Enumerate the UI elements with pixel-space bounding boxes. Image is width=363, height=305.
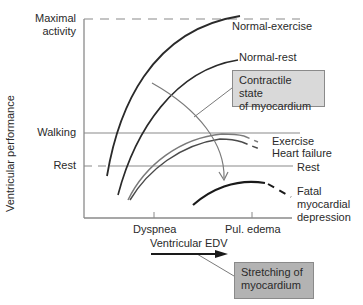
curve-rest-hf (130, 139, 242, 200)
stretching-line1: Stretching of (241, 266, 307, 279)
y-axis-title: Ventricular performance (4, 95, 16, 212)
label-rest-curve: Rest (297, 161, 320, 174)
contractile-line2: of myocardium (239, 100, 318, 113)
curve-fatal (193, 182, 265, 205)
stretching-box: Stretching of myocardium (234, 262, 314, 299)
curve-rest-hf-dashed (242, 142, 262, 150)
label-fatal-line1: Fatal (297, 185, 321, 198)
level-walking: Walking (20, 126, 76, 139)
level-maximal-line1: Maximal (20, 12, 76, 25)
tick-label-dyspnea: Dyspnea (133, 223, 176, 236)
level-maximal-line2: activity (20, 25, 76, 38)
level-rest: Rest (20, 159, 76, 172)
label-fatal-line2: myocardial (297, 198, 350, 211)
stretching-line2: myocardium (241, 279, 307, 292)
curve-exercise-hf (128, 134, 244, 200)
label-normal-exercise: Normal-exercise (232, 20, 312, 33)
edv-arrowhead (215, 250, 228, 258)
label-fatal-line3: depression (297, 211, 351, 224)
curve-fatal-dashed (268, 184, 291, 197)
contractile-state-box: Contractile state of myocardium (232, 70, 325, 107)
curve-exercise-hf-dashed (244, 136, 258, 142)
tick-label-pul-edema: Pul. edema (225, 223, 281, 236)
contractile-line1: Contractile state (239, 74, 318, 100)
curve-normal-rest (118, 60, 238, 195)
x-axis-title: Ventricular EDV (150, 237, 228, 250)
label-heart-failure: Heart failure (272, 147, 332, 160)
label-normal-rest: Normal-rest (239, 51, 296, 64)
contractile-leader (194, 88, 232, 117)
